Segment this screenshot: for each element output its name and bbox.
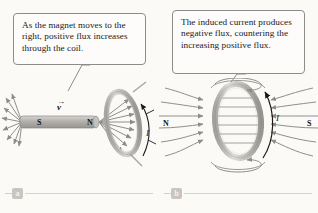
caption-lead-rule-b xyxy=(164,193,171,194)
caption-rule-a xyxy=(25,193,153,194)
callout-text-a: As the magnet moves to the right, positi… xyxy=(22,20,138,54)
panel-a: As the magnet moves to the right, positi… xyxy=(0,0,159,213)
callout-bubble-a: As the magnet moves to the right, positi… xyxy=(13,13,146,65)
pole-right-label-b: S xyxy=(307,119,311,128)
diagram-b xyxy=(159,78,318,178)
callout-text-b: The induced current produces negative fl… xyxy=(181,17,297,51)
figure-root: As the magnet moves to the right, positi… xyxy=(0,0,318,213)
caption-lead-rule-a xyxy=(5,193,12,194)
caption-rule-b xyxy=(184,193,312,194)
panel-b: The induced current produces negative fl… xyxy=(159,0,318,213)
current-label-b: I xyxy=(276,113,279,123)
caption-label-b: b xyxy=(171,188,182,199)
caption-label-a: a xyxy=(12,188,23,199)
magnet-north-pole-label: N xyxy=(87,118,93,127)
caption-row-b: b xyxy=(164,187,312,199)
caption-row-a: a xyxy=(5,187,153,199)
diagram-a xyxy=(0,78,159,178)
current-label-a: I xyxy=(146,128,149,138)
magnet-south-pole-label: S xyxy=(37,118,41,127)
callout-bubble-b: The induced current produces negative fl… xyxy=(172,10,305,74)
velocity-vector-label: → v xyxy=(57,100,65,111)
velocity-letter: v xyxy=(57,102,61,112)
pole-left-label-b: N xyxy=(163,119,169,128)
